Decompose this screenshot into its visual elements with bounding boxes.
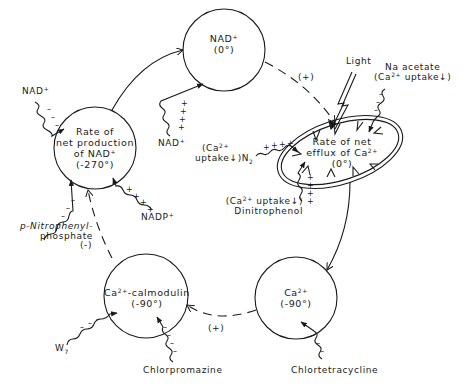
node-ca-efflux-label: Rate of net efflux of Ca2+ (0°): [300, 136, 384, 169]
node-nad-rate-label: Rate of net production of NAD+ (-270°): [53, 126, 137, 170]
effector-nad-rate-label: NAD+: [22, 86, 49, 96]
effector-pnpp-label: p-Nitrophenyl- phosphate: [5, 221, 93, 241]
svg-text:–: –: [88, 319, 92, 328]
node-ca-phase-label: Ca2+ (-90°): [270, 287, 322, 309]
svg-text:+: +: [307, 197, 314, 206]
edge-caphase-to-calmodulin: [187, 305, 256, 316]
svg-text:–: –: [71, 196, 75, 205]
effector-chlortetracycline-label: Chlortetracycline: [291, 365, 378, 375]
effector-light-label: Light: [346, 56, 371, 66]
svg-text:–: –: [96, 315, 100, 324]
svg-text:+: +: [178, 123, 185, 132]
effector-nadp-label: NADP+: [141, 212, 174, 222]
effector-w7-label: W7: [55, 343, 69, 357]
svg-text:+: +: [140, 198, 147, 207]
effector-chlorpromazine-label: Chlorpromazine: [143, 365, 223, 375]
diagram-canvas: ––– ++++ –––– ++++ ––– ++++ ++++ ––– –––…: [0, 0, 466, 385]
edge-sign-calmodulin-nadrate: (-): [80, 240, 92, 250]
svg-text:+: +: [133, 192, 140, 201]
svg-text:–: –: [320, 347, 324, 356]
svg-text:–: –: [311, 331, 315, 340]
svg-text:+: +: [279, 140, 286, 149]
svg-text:–: –: [80, 323, 84, 332]
svg-text:–: –: [374, 106, 378, 115]
node-nad-phase-label: NAD+ (0°): [200, 33, 248, 55]
svg-text:+: +: [287, 139, 294, 148]
svg-text:+: +: [271, 141, 278, 150]
svg-text:–: –: [66, 204, 70, 213]
svg-text:+: +: [263, 143, 270, 152]
svg-text:–: –: [173, 347, 177, 356]
effector-n2-label: (Ca2+ uptake↓)N2: [195, 143, 254, 167]
svg-text:–: –: [61, 212, 65, 221]
effector-na-acetate-label: Na acetate (Ca2+ uptake↓): [374, 62, 451, 82]
svg-text:+: +: [126, 185, 133, 194]
effector-dnp-label: (Ca2+ uptake↓) Dinitrophenol: [205, 196, 303, 216]
edge-nadrate-to-nadphase: [112, 50, 183, 110]
node-calmodulin-label: Ca2+-calmodulin (-90°): [98, 287, 196, 309]
edge-sign-nad-efflux: (+): [298, 72, 314, 82]
edge-sign-ca-calmodulin: (+): [208, 323, 224, 333]
effector-nad-into-nad-label: NAD+: [158, 138, 185, 148]
edge-efflux-to-caphase: [327, 182, 350, 270]
